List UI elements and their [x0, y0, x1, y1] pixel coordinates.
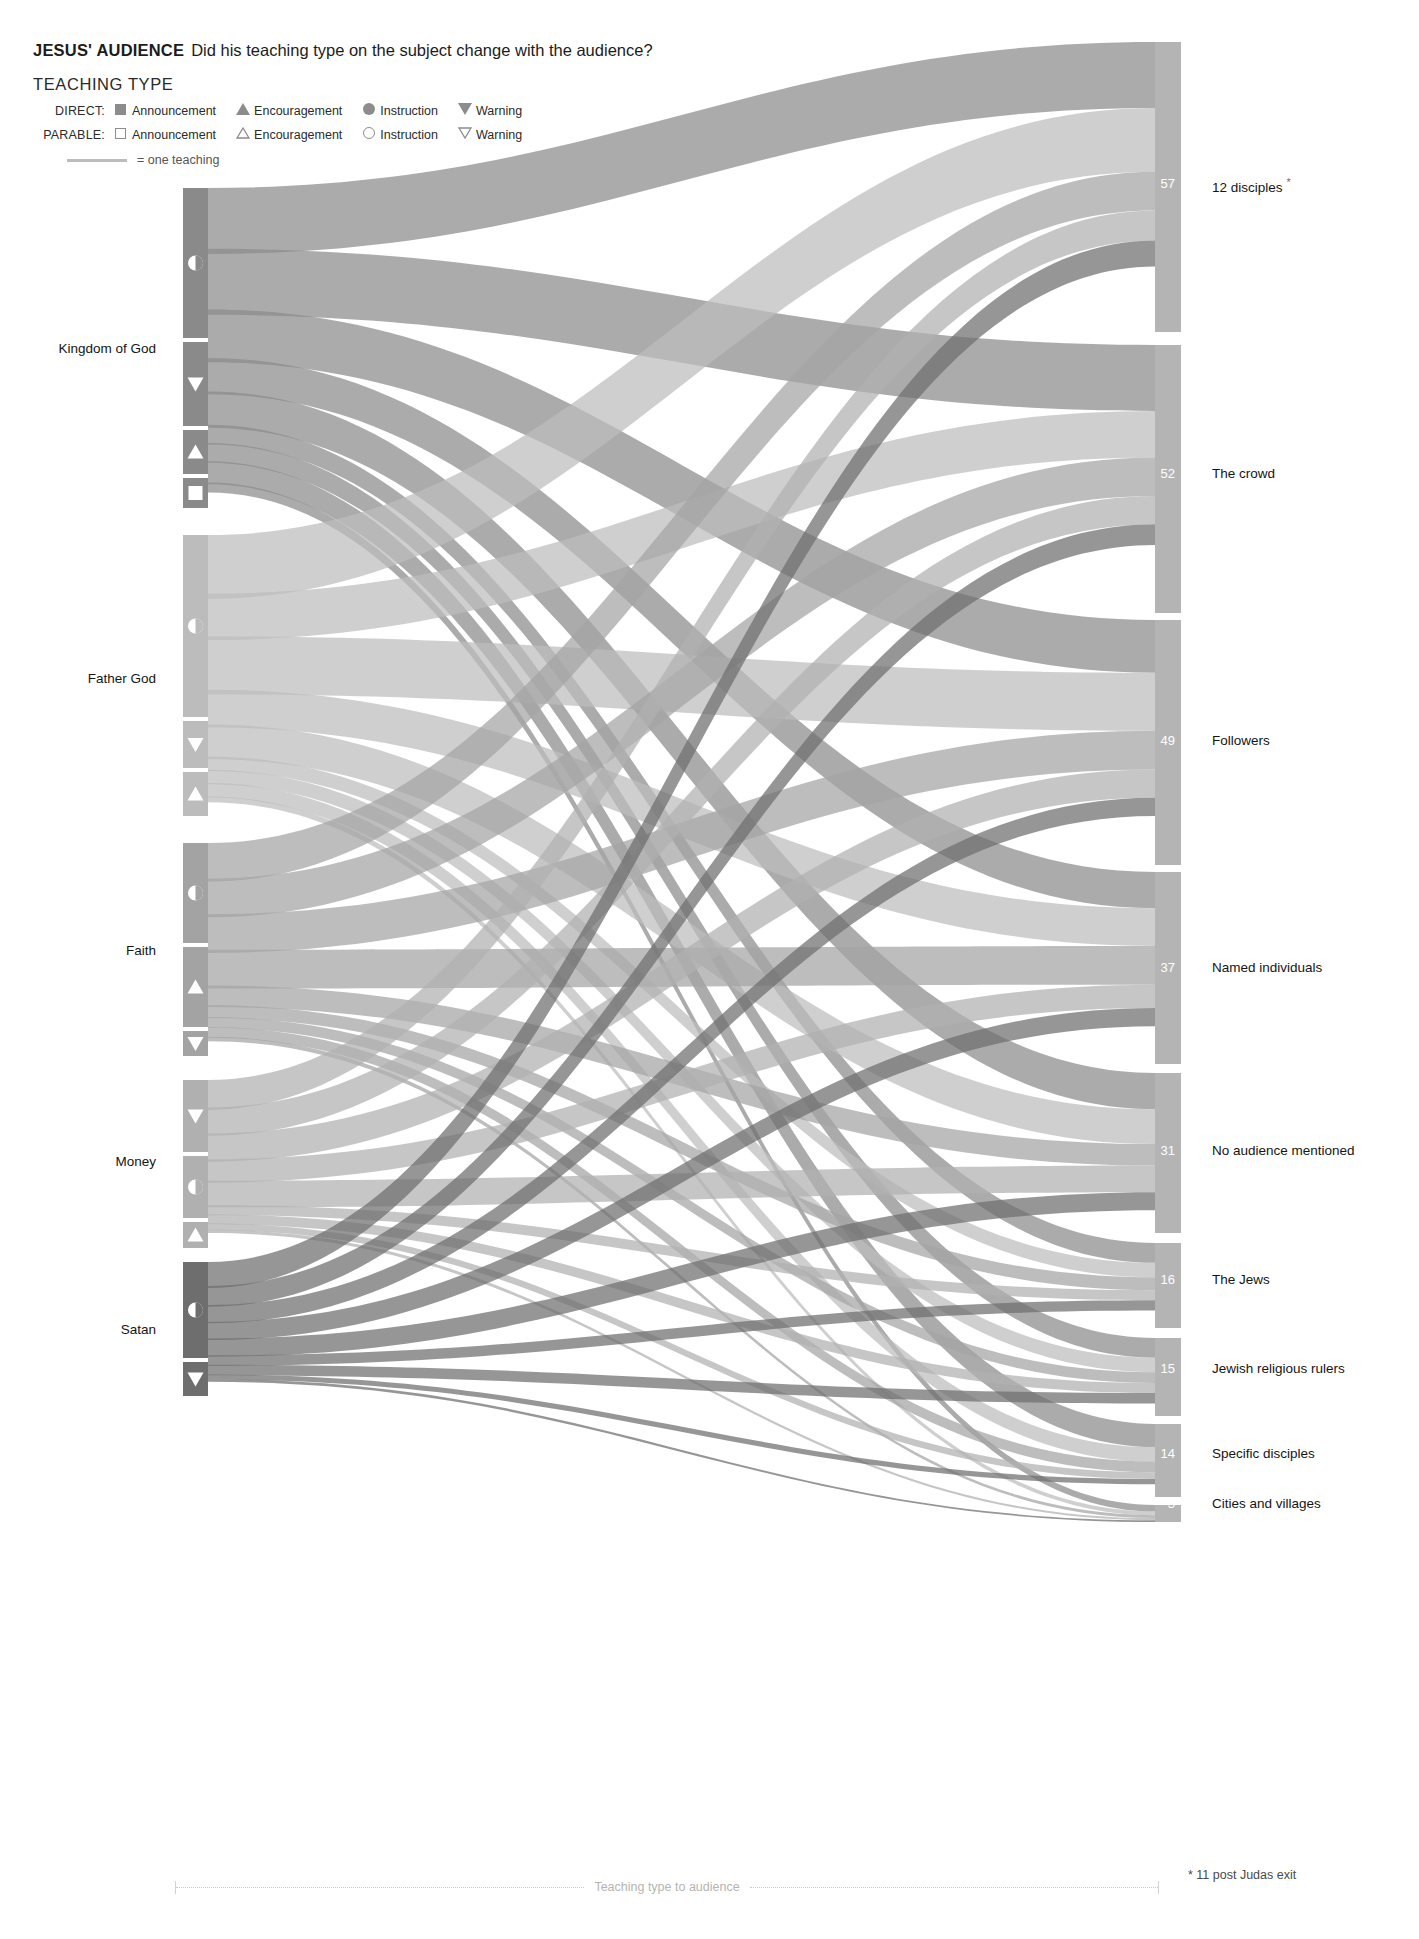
legend-label: Warning	[476, 104, 522, 118]
legend-label: Announcement	[132, 104, 216, 118]
target-label-followers: Followers	[1212, 733, 1270, 748]
footnote: * 11 post Judas exit	[1188, 1868, 1296, 1882]
target-label-specific: Specific disciples	[1212, 1446, 1315, 1461]
sankey-source-nodes	[183, 188, 208, 1396]
legend-title: TEACHING TYPE	[33, 75, 1033, 94]
target-value-noaudience: 31	[1115, 1143, 1175, 1158]
target-label-crowd: The crowd	[1212, 466, 1275, 481]
target-label-cities: Cities and villages	[1212, 1496, 1321, 1511]
legend-row-direct: DIRECT: Announcement Encouragement Instr…	[33, 103, 1033, 118]
sankey-diagram	[0, 0, 1419, 1939]
header: JESUS' AUDIENCEDid his teaching type on …	[33, 40, 1033, 167]
legend-label: Instruction	[380, 104, 438, 118]
outline-circle-icon	[360, 127, 377, 142]
outline-triangle-up-icon	[234, 127, 251, 142]
source-label-faith: Faith	[0, 943, 156, 958]
footnote-star: *	[1287, 176, 1291, 188]
half-circle-icon	[188, 886, 203, 901]
target-label-rulers: Jewish religious rulers	[1212, 1361, 1345, 1376]
target-value-named: 37	[1115, 960, 1175, 975]
sankey-target-nodes	[1155, 42, 1181, 1522]
target-label-disciples12: 12 disciples*	[1212, 176, 1291, 195]
axis-dotted-line-left	[176, 1886, 584, 1888]
half-circle-icon	[188, 1303, 203, 1318]
target-node-bar	[1155, 1338, 1181, 1416]
target-label-jews: The Jews	[1212, 1272, 1270, 1287]
target-value-cities: 3	[1115, 1496, 1175, 1511]
title-subtitle: Did his teaching type on the subject cha…	[191, 41, 652, 59]
half-circle-icon	[188, 1180, 203, 1195]
half-circle-icon	[188, 256, 203, 271]
legend-label: Announcement	[132, 128, 216, 142]
unit-legend: = one teaching	[33, 153, 1033, 167]
axis-caption-label: Teaching type to audience	[584, 1880, 749, 1894]
legend-row-parable: PARABLE: Announcement Encouragement Inst…	[33, 127, 1033, 142]
unit-legend-label: = one teaching	[137, 153, 219, 167]
axis-dotted-line-right	[750, 1886, 1158, 1888]
filled-triangle-down-icon	[456, 103, 473, 118]
legend-direct-instruction: Instruction	[360, 103, 438, 118]
legend-parable-instruction: Instruction	[360, 127, 438, 142]
legend-parable-encouragement: Encouragement	[234, 127, 342, 142]
legend-direct-encouragement: Encouragement	[234, 103, 342, 118]
source-label-father: Father God	[0, 671, 156, 686]
outline-square-icon	[112, 128, 129, 142]
legend-label: Encouragement	[254, 128, 342, 142]
unit-line-icon	[67, 159, 127, 162]
legend-label: Warning	[476, 128, 522, 142]
target-value-jews: 16	[1115, 1272, 1175, 1287]
half-circle-icon	[188, 619, 203, 634]
legend-label: Encouragement	[254, 104, 342, 118]
legend-parable-label: PARABLE:	[33, 128, 112, 142]
filled-triangle-up-icon	[234, 103, 251, 118]
target-value-disciples12: 57	[1115, 176, 1175, 191]
square-icon	[189, 486, 203, 500]
target-value-crowd: 52	[1115, 466, 1175, 481]
source-label-money: Money	[0, 1154, 156, 1169]
legend-direct-announcement: Announcement	[112, 104, 216, 118]
legend-parable-announcement: Announcement	[112, 128, 216, 142]
legend-direct-label: DIRECT:	[33, 104, 112, 118]
page-title: JESUS' AUDIENCEDid his teaching type on …	[33, 40, 1033, 60]
target-value-rulers: 15	[1115, 1361, 1175, 1376]
outline-triangle-down-icon	[456, 127, 473, 142]
source-label-satan: Satan	[0, 1322, 156, 1337]
filled-square-icon	[112, 104, 129, 118]
target-label-noaudience: No audience mentioned	[1212, 1143, 1355, 1158]
legend-direct-warning: Warning	[456, 103, 522, 118]
source-label-kingdom: Kingdom of God	[0, 341, 156, 356]
axis-caption: Teaching type to audience	[175, 1878, 1159, 1896]
target-label-named: Named individuals	[1212, 960, 1322, 975]
legend-parable-warning: Warning	[456, 127, 522, 142]
target-value-followers: 49	[1115, 733, 1175, 748]
target-value-specific: 14	[1115, 1446, 1175, 1461]
filled-circle-icon	[360, 103, 377, 118]
sankey-links	[208, 42, 1155, 1522]
title-main: JESUS' AUDIENCE	[33, 41, 184, 59]
axis-tick-right	[1158, 1881, 1159, 1894]
legend-label: Instruction	[380, 128, 438, 142]
